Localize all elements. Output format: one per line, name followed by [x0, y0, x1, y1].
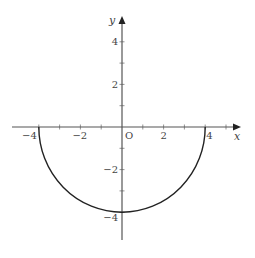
- y-axis-arrow-icon: [119, 16, 126, 24]
- x-tick-label: 2: [161, 130, 167, 141]
- y-tick-label: −4: [103, 212, 118, 223]
- x-tick-label: −2: [72, 130, 87, 141]
- semicircle-chart: −4−22442−2−4 x y O: [0, 0, 255, 258]
- origin-label: O: [125, 130, 133, 141]
- y-tick-label: −2: [103, 164, 118, 175]
- x-tick-label: 4: [206, 130, 212, 141]
- y-tick-label: 2: [112, 79, 118, 90]
- chart-plot-area: −4−22442−2−4 x y O: [0, 0, 255, 258]
- tick-labels: −4−22442−2−4: [22, 36, 213, 223]
- x-tick-label: −4: [22, 130, 37, 141]
- y-tick-label: 4: [112, 36, 118, 47]
- x-axis-label: x: [234, 130, 241, 143]
- y-axis-label: y: [108, 14, 116, 27]
